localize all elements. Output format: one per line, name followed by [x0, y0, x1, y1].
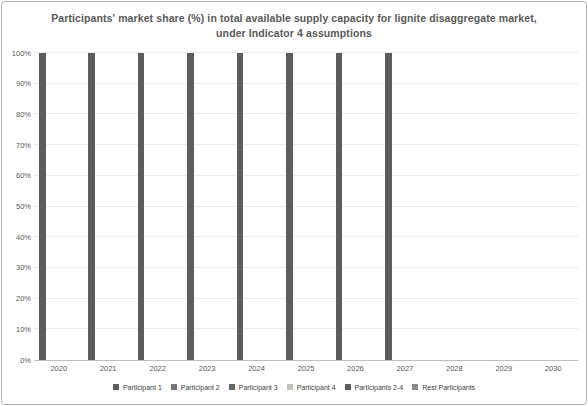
legend-label: Rest Participants [422, 384, 475, 391]
legend-marker-icon [171, 384, 177, 390]
legend-marker-icon [113, 384, 119, 390]
x-tick-label: 2027 [380, 364, 429, 373]
x-tick-label: 2030 [529, 364, 578, 373]
gridline [34, 298, 578, 299]
legend-label: Participant 3 [239, 384, 278, 391]
bar-participant-1-2026 [336, 53, 343, 360]
x-tick-label: 2021 [83, 364, 132, 373]
y-tick-label: 20% [16, 294, 31, 303]
bar-participant-1-2025 [286, 53, 293, 360]
gridline [34, 175, 578, 176]
x-tick-label: 2022 [133, 364, 182, 373]
legend-label: Participants 2-4 [355, 384, 404, 391]
x-tick-label: 2020 [34, 364, 83, 373]
gridline [34, 328, 578, 329]
y-tick-label: 80% [16, 110, 31, 119]
y-axis: 0%10%20%30%40%50%60%70%80%90%100% [2, 53, 31, 360]
x-tick-label: 2025 [281, 364, 330, 373]
legend-label: Participant 1 [123, 384, 162, 391]
y-tick-label: 50% [16, 202, 31, 211]
bar-participant-1-2021 [88, 53, 95, 360]
y-tick-label: 30% [16, 263, 31, 272]
bar-participant-1-2022 [138, 53, 145, 360]
chart-title-line2: under Indicator 4 assumptions [22, 26, 566, 41]
legend-marker-icon [345, 384, 351, 390]
x-tick-label: 2026 [331, 364, 380, 373]
y-tick-label: 90% [16, 79, 31, 88]
gridline [34, 83, 578, 84]
y-tick-label: 40% [16, 233, 31, 242]
legend-item-participants-2-4: Participants 2-4 [345, 384, 404, 391]
y-tick-label: 70% [16, 141, 31, 150]
y-tick-label: 60% [16, 171, 31, 180]
chart-title: Participants' market share (%) in total … [22, 11, 566, 41]
legend-label: Participant 2 [181, 384, 220, 391]
bar-participant-1-2023 [187, 53, 194, 360]
legend-marker-icon [287, 384, 293, 390]
gridline [34, 267, 578, 268]
y-tick-label: 10% [16, 325, 31, 334]
bar-participant-1-2020 [39, 53, 46, 360]
chart-title-line1: Participants' market share (%) in total … [22, 11, 566, 26]
legend-label: Participant 4 [297, 384, 336, 391]
x-tick-label: 2023 [182, 364, 231, 373]
x-tick-label: 2028 [430, 364, 479, 373]
legend-item-rest-participants: Rest Participants [412, 384, 475, 391]
legend: Participant 1Participant 2Participant 3P… [2, 380, 586, 394]
gridline [34, 113, 578, 114]
x-tick-label: 2024 [232, 364, 281, 373]
y-tick-label: 0% [20, 356, 31, 365]
gridline [34, 144, 578, 145]
legend-marker-icon [412, 384, 418, 390]
gridline [34, 236, 578, 237]
chart-frame: Participants' market share (%) in total … [1, 1, 587, 405]
legend-marker-icon [229, 384, 235, 390]
bar-participant-1-2027 [385, 53, 392, 360]
gridline [34, 206, 578, 207]
x-axis: 2020202120222023202420252026202720282029… [34, 364, 578, 376]
y-tick-label: 100% [12, 49, 31, 58]
legend-item-participant-3: Participant 3 [229, 384, 278, 391]
legend-item-participant-1: Participant 1 [113, 384, 162, 391]
legend-item-participant-4: Participant 4 [287, 384, 336, 391]
bar-participant-1-2024 [237, 53, 244, 360]
legend-item-participant-2: Participant 2 [171, 384, 220, 391]
plot-area [34, 53, 578, 361]
gridline [34, 52, 578, 53]
x-tick-label: 2029 [479, 364, 528, 373]
